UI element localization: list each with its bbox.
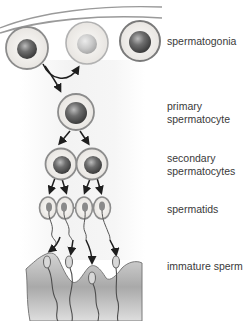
primary-spermatocyte-cell xyxy=(58,94,94,130)
label-spermatogonia: spermatogonia xyxy=(167,35,236,48)
spermatogonium-cell-1 xyxy=(6,27,48,69)
label-line: spermatocyte xyxy=(167,113,230,126)
spermatogenesis-diagram: spermatogonia primary spermatocyte secon… xyxy=(0,0,244,321)
label-line: secondary xyxy=(167,152,235,165)
label-line: spermatocytes xyxy=(167,165,235,178)
label-line: spermatogonia xyxy=(167,35,236,48)
spermatogonium-cell-3 xyxy=(120,21,160,61)
label-line: primary xyxy=(167,100,230,113)
spermatogonium-cell-2 xyxy=(66,22,108,64)
label-secondary-spermatocytes: secondary spermatocytes xyxy=(167,152,235,178)
label-spermatids: spermatids xyxy=(167,203,218,216)
label-immature-sperm: immature sperm xyxy=(167,260,243,273)
label-primary-spermatocyte: primary spermatocyte xyxy=(167,100,230,126)
label-line: immature sperm xyxy=(167,260,243,273)
label-line: spermatids xyxy=(167,203,218,216)
